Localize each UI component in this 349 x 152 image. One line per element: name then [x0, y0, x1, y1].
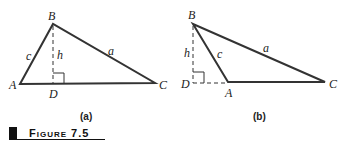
vertex-C-label: C: [159, 78, 168, 92]
vertex-B-label: B: [48, 9, 56, 23]
vertex-D-label: D: [48, 87, 58, 101]
side-a-label: a: [263, 41, 269, 55]
triangle-b: B D A C h c a (b): [180, 8, 338, 122]
vertex-A-label: A: [224, 86, 233, 100]
caption-marker: [9, 127, 17, 140]
triangle-b-outline: [193, 24, 325, 82]
triangle-a: B A C D c h a (a): [8, 9, 168, 122]
caption-rule: [17, 139, 105, 140]
vertex-C-label: C: [329, 77, 338, 91]
panel-b-label: (b): [253, 111, 266, 122]
right-angle-mark-a: [53, 73, 64, 84]
height-h-label: h: [57, 48, 63, 62]
vertex-D-label: D: [180, 77, 190, 91]
triangle-a-outline: [20, 24, 155, 84]
side-c-label: c: [217, 47, 223, 61]
vertex-A-label: A: [8, 78, 17, 92]
height-h-label: h: [184, 46, 190, 60]
vertex-B-label: B: [188, 8, 196, 22]
side-c-label: c: [26, 49, 32, 63]
right-angle-mark-b: [193, 72, 204, 83]
figure-caption: Figure 7.5: [9, 127, 99, 141]
panel-a-label: (a): [80, 111, 92, 122]
side-a-label: a: [108, 44, 114, 58]
caption-text: Figure 7.5: [29, 127, 89, 139]
